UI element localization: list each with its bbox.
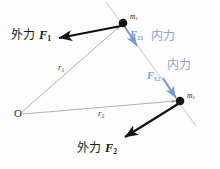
position-vector-label-r1: r1 xyxy=(58,62,64,72)
internal-force-symbol-f12: F12 xyxy=(147,70,160,81)
internal-force-text-f21: 内力 xyxy=(151,26,175,43)
external-force-arrow-f1 xyxy=(59,26,121,38)
mass-point-m2 xyxy=(176,97,185,106)
physics-diagram-figure: m1 m2 O r1 r2 外力 F1 外力 F2 F21 内力 F12 内力 xyxy=(0,0,220,169)
external-force-symbol-f2: F2 xyxy=(105,141,117,156)
mass-point-m1 xyxy=(119,19,128,28)
external-force-text-f2: 外力 xyxy=(77,138,101,155)
mass-label-m1: m1 xyxy=(130,12,138,21)
external-force-arrow-f2 xyxy=(125,104,178,137)
origin-label: O xyxy=(14,107,22,119)
internal-force-arrow-f12 xyxy=(163,78,176,98)
internal-force-symbol-f21: F21 xyxy=(130,29,143,40)
external-force-symbol-f1: F1 xyxy=(39,28,51,43)
external-force-label-f1: 外力 F1 xyxy=(11,25,51,43)
internal-force-text-f12: 内力 xyxy=(167,55,191,72)
external-force-text-f1: 外力 xyxy=(11,25,35,42)
mass-label-m2: m2 xyxy=(187,91,195,100)
position-vector-label-r2: r2 xyxy=(98,108,104,118)
external-force-label-f2: 外力 F2 xyxy=(77,138,117,156)
